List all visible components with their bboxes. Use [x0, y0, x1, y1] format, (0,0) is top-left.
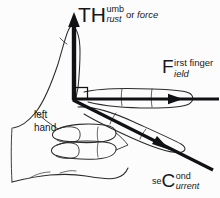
label-second-finger: seCondurrent — [152, 171, 199, 191]
label-second-sup: ond — [176, 171, 200, 181]
label-first-sub: ield — [174, 68, 213, 79]
label-first-stack: irst fingerield — [174, 57, 213, 79]
label-first-big: F — [162, 57, 174, 77]
fourth-finger-crease — [97, 143, 98, 157]
label-thrust-tail-plain: or — [126, 9, 137, 20]
field-arrowhead — [168, 94, 183, 104]
label-second-prefix: se — [152, 171, 162, 191]
wrist-edge — [11, 128, 12, 182]
label-left-hand-line2: hand — [34, 122, 56, 135]
label-second-big: C — [162, 171, 176, 191]
third-finger-crease — [97, 127, 98, 141]
palm-heel-crease-right — [60, 171, 76, 173]
label-first-sup: irst finger — [174, 57, 213, 68]
diagram-canvas: THumbrustor force First fingerield seCon… — [0, 0, 220, 198]
label-second-stack: ondurrent — [176, 171, 200, 191]
label-thrust-tail: or force — [126, 4, 158, 26]
hand-outline — [11, 25, 193, 182]
current-arrowhead — [152, 136, 170, 150]
label-left-hand-line1: left — [34, 109, 56, 122]
label-thrust-tail-italic: force — [137, 9, 158, 20]
label-second-sub: urrent — [176, 181, 200, 191]
fleming-left-hand-diagram — [0, 0, 220, 198]
palm-lower-edge — [12, 168, 128, 182]
field-axis — [72, 94, 219, 104]
label-thrust-stack: umbrust — [107, 4, 125, 24]
label-first-finger: First fingerield — [162, 57, 213, 79]
label-thrust-sup: umb — [107, 4, 125, 14]
label-thrust-sub: rust — [107, 14, 125, 24]
label-thrust-big: TH — [78, 4, 106, 26]
third-finger-outline — [52, 124, 116, 143]
label-thrust: THumbrustor force — [78, 4, 158, 26]
label-left-hand: left hand — [34, 109, 56, 134]
